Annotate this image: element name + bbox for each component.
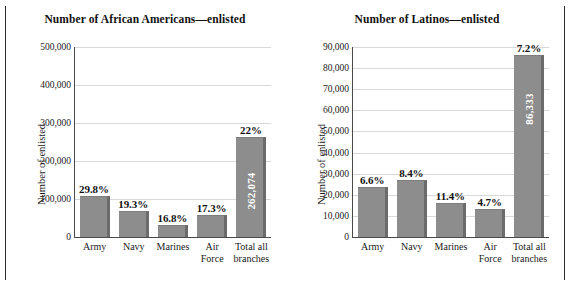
y-tick-label-latinos: 10,000 [323,211,349,221]
y-tick-label-latinos: 40,000 [323,148,349,158]
y-tick-label-african-americans: 400,000 [40,80,71,90]
bar-african-americans [80,196,110,237]
bar-percent-label-latinos: 11.4% [436,190,465,202]
y-tick-label-african-americans: 200,000 [40,156,71,166]
bar-african-americans [158,225,188,237]
y-tick-label-latinos: 30,000 [323,169,349,179]
bar-latinos [397,180,427,237]
bar-percent-label-african-americans: 16.8% [158,212,188,224]
y-tick-label-latinos: 80,000 [323,63,349,73]
bar-percent-label-african-americans: 17.3% [197,202,227,214]
chart-panel-african-americans: Number of African Americans—enlisted Num… [6,0,284,286]
y-tick-label-african-americans: 300,000 [40,118,71,128]
y-tick-label-african-americans: 100,000 [40,194,71,204]
y-tick-label-african-americans: 500,000 [40,42,71,52]
x-axis-label-latinos: Total allbranches [500,241,558,264]
bar-group-african-americans: 19.3%Navy [119,47,149,237]
figure-right-rule [564,6,565,280]
bar-percent-label-latinos: 7.2% [517,42,541,54]
y-tick-label-latinos: 90,000 [323,42,349,52]
bar-african-americans [119,211,149,237]
chart-title-african-americans: Number of African Americans—enlisted [6,13,284,25]
bar-group-latinos: 8.4%Navy [397,47,427,237]
bar-african-americans [197,215,227,237]
chart-title-latinos: Number of Latinos—enlisted [290,13,564,25]
bar-value-label-latinos: 86,333 [523,93,535,124]
bar-group-african-americans: 29.8%Army [80,47,110,237]
bar-percent-label-african-americans: 22% [240,124,262,136]
bar-percent-label-african-americans: 29.8% [79,183,109,195]
bar-percent-label-latinos: 8.4% [399,167,423,179]
bar-group-african-americans: 22%262,074Total allbranches [236,47,266,237]
chart-panel-latinos: Number of Latinos—enlisted Number of enl… [290,0,564,286]
bar-group-latinos: 7.2%86,333Total allbranches [514,47,544,237]
y-tick-label-latinos: 60,000 [323,105,349,115]
bar-group-african-americans: 16.8%Marines [158,47,188,237]
bar-percent-label-latinos: 4.7% [478,196,502,208]
bar-group-latinos: 4.7%AirForce [475,47,505,237]
bar-group-latinos: 11.4%Marines [436,47,466,237]
bar-latinos [358,187,388,237]
bar-group-african-americans: 17.3%AirForce [197,47,227,237]
plot-area-african-americans: 0100,000200,000300,000400,000500,00029.8… [74,47,271,238]
bar-percent-label-african-americans: 19.3% [118,198,148,210]
y-tick-label-latinos: 50,000 [323,126,349,136]
y-tick-label-latinos: 20,000 [323,190,349,200]
y-tick-label-latinos: 70,000 [323,84,349,94]
bar-value-label-african-americans: 262,074 [245,173,257,210]
x-axis-label-african-americans: Total allbranches [222,241,280,264]
bar-latinos [436,203,466,237]
figure-container: Number of African Americans—enlisted Num… [0,0,570,286]
bar-group-latinos: 6.6%Army [358,47,388,237]
bar-latinos [475,209,505,237]
bar-latinos [514,55,544,237]
bar-percent-label-latinos: 6.6% [360,174,384,186]
plot-area-latinos: 010,00020,00030,00040,00050,00060,00070,… [352,47,549,238]
